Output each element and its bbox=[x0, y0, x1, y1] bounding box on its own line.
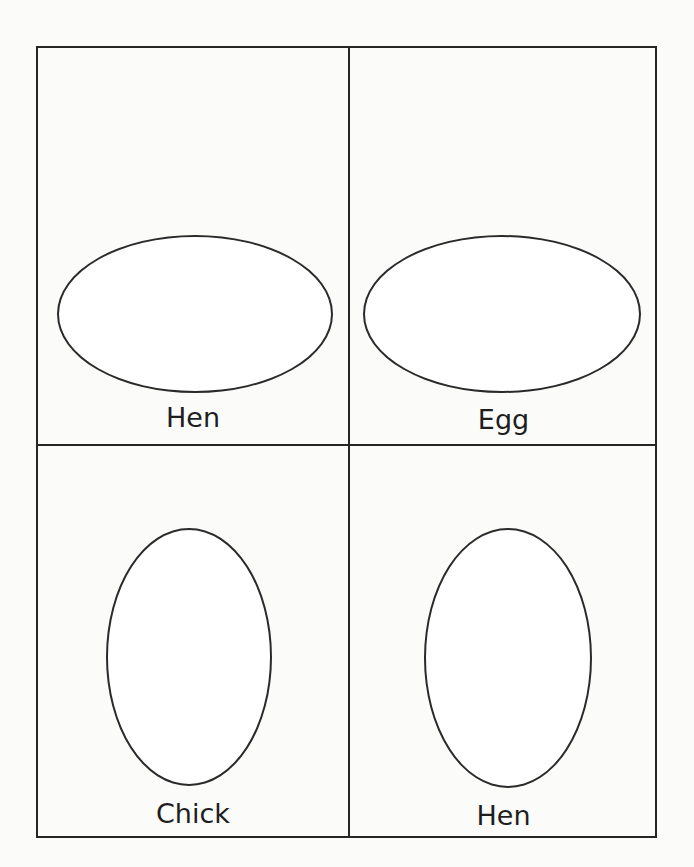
oval-shape bbox=[106, 528, 272, 786]
cell-bottom-right: Hen bbox=[350, 446, 657, 838]
cell-bottom-left: Chick bbox=[38, 446, 348, 838]
cell-label: Egg bbox=[350, 404, 657, 435]
cell-top-left: Hen bbox=[38, 48, 348, 444]
cell-label: Chick bbox=[38, 798, 348, 829]
worksheet-grid: Hen Egg Chick Hen bbox=[36, 46, 657, 838]
oval-shape bbox=[424, 528, 592, 788]
cell-top-right: Egg bbox=[350, 48, 657, 444]
oval-shape bbox=[57, 235, 333, 393]
oval-shape bbox=[363, 235, 641, 393]
cell-label: Hen bbox=[38, 402, 348, 433]
cell-label: Hen bbox=[350, 800, 657, 831]
